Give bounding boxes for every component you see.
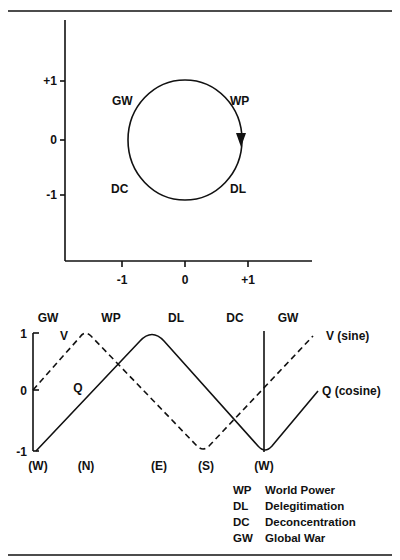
legend-text: Delegitimation bbox=[265, 500, 344, 512]
legend-abbr: DL bbox=[233, 500, 248, 512]
figure: +1 0 -1 -1 0 +1 GW WP DC DL GW WP DL DC … bbox=[0, 0, 400, 560]
sine-cosine-chart: GW WP DL DC GW 1 0 -1 V Q V (sine) Q (co… bbox=[16, 311, 380, 473]
phase-label: GW bbox=[278, 311, 299, 325]
legend-text: Global War bbox=[265, 532, 326, 544]
legend-abbr: WP bbox=[233, 484, 252, 496]
circle-label-dc: DC bbox=[111, 182, 129, 196]
x-tick-label: -1 bbox=[117, 273, 128, 287]
compass-label: (N) bbox=[78, 459, 95, 473]
y-tick-label: 1 bbox=[20, 327, 27, 341]
circle-label-gw: GW bbox=[112, 94, 133, 108]
series-label-v: V (sine) bbox=[326, 329, 369, 343]
series-label-q: Q (cosine) bbox=[322, 384, 381, 398]
y-tick-label: 0 bbox=[20, 384, 27, 398]
circle-label-wp: WP bbox=[230, 94, 249, 108]
legend-abbr: DC bbox=[233, 516, 250, 528]
compass-label: (E) bbox=[151, 459, 167, 473]
phase-label: WP bbox=[101, 311, 120, 325]
phase-circle-chart: +1 0 -1 -1 0 +1 GW WP DC DL bbox=[43, 20, 312, 287]
phase-label: GW bbox=[38, 311, 59, 325]
phase-label: DL bbox=[168, 311, 184, 325]
x-tick-label: 0 bbox=[182, 273, 189, 287]
legend-text: World Power bbox=[265, 484, 336, 496]
circle-label-dl: DL bbox=[230, 182, 246, 196]
compass-label: (W) bbox=[254, 459, 273, 473]
y-tick-label: +1 bbox=[43, 74, 57, 88]
phase-circle bbox=[128, 80, 242, 200]
x-tick-label: +1 bbox=[241, 273, 255, 287]
clockwise-arrow-icon bbox=[236, 133, 246, 147]
phase-label: DC bbox=[226, 311, 244, 325]
compass-label: (W) bbox=[28, 459, 47, 473]
legend: WP World Power DL Delegitimation DC Deco… bbox=[233, 484, 356, 544]
curve-label-q: Q bbox=[73, 381, 82, 395]
compass-label: (S) bbox=[198, 459, 214, 473]
curve-label-v: V bbox=[60, 329, 68, 343]
y-tick-label: -1 bbox=[16, 445, 27, 459]
legend-abbr: GW bbox=[233, 532, 253, 544]
legend-text: Deconcentration bbox=[265, 516, 356, 528]
y-tick-label: 0 bbox=[50, 133, 57, 147]
y-tick-label: -1 bbox=[46, 188, 57, 202]
